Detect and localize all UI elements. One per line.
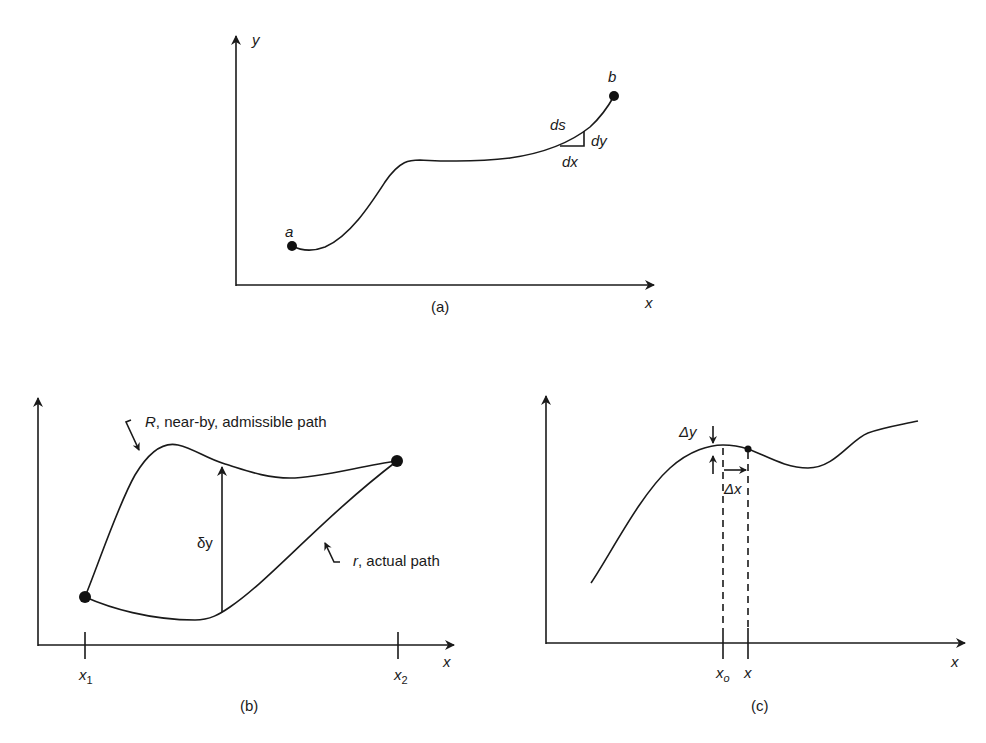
panel-b-actual-path	[85, 461, 397, 620]
panel-c-delta-x-label: Δx	[723, 480, 742, 497]
panel-b-caption: (b)	[240, 697, 258, 714]
panel-b-admissible-path	[85, 444, 397, 597]
panel-b-admissible-pointer-icon	[126, 420, 139, 450]
figure-canvas: y x a b ds dy dx (a) x x1 x2 δy R, near-…	[0, 0, 986, 743]
panel-b-admissible-label: R, near-by, admissible path	[145, 413, 326, 430]
panel-c-x-label: x	[950, 653, 959, 670]
panel-a-point-a	[287, 241, 297, 251]
panel-a-point-b	[609, 91, 619, 101]
panel-b-endpoint-x1	[79, 591, 91, 603]
panel-b: x x1 x2 δy R, near-by, admissible path r…	[38, 398, 454, 714]
panel-a-y-label: y	[251, 31, 261, 48]
panel-c-point-x	[745, 446, 752, 453]
panel-a-dy-label: dy	[591, 132, 608, 149]
panel-b-endpoint-x2	[391, 455, 403, 467]
panel-a-x-label: x	[644, 294, 653, 311]
panel-c-function-curve	[591, 421, 918, 583]
panel-c-tick-x-label: x	[743, 664, 752, 681]
panel-c-caption: (c)	[751, 697, 769, 714]
panel-b-tick-x1-label: x1	[78, 666, 93, 686]
panel-b-tick-x2-label: x2	[393, 666, 408, 686]
panel-a-point-a-label: a	[285, 223, 293, 240]
panel-a: y x a b ds dy dx (a)	[236, 31, 654, 315]
panel-a-ds-label: ds	[550, 116, 566, 133]
panel-a-dx-label: dx	[562, 153, 578, 170]
panel-b-x-label: x	[442, 653, 451, 670]
panel-b-actual-pointer-icon	[325, 543, 340, 562]
panel-a-caption: (a)	[431, 298, 449, 315]
panel-c-tick-xo-label: xo	[715, 664, 730, 684]
panel-c: x xo x Δy Δx (c)	[546, 396, 965, 714]
panel-c-delta-y-label: Δy	[678, 423, 698, 440]
panel-b-actual-label: r, actual path	[353, 552, 440, 569]
panel-b-variation-label: δy	[197, 534, 213, 551]
panel-a-point-b-label: b	[608, 68, 616, 85]
